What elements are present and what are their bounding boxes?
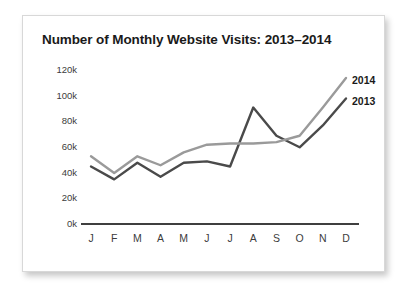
series-label-2013: 2013 [352, 95, 375, 107]
series-line-2013 [91, 99, 346, 180]
x-axis-tick-label: N [313, 232, 333, 244]
x-axis-tick-label: A [151, 232, 171, 244]
x-axis-tick-label: S [266, 232, 286, 244]
y-axis-tick-label: 40k [37, 166, 77, 177]
y-axis-tick-label: 100k [37, 89, 77, 100]
x-axis-tick-label: O [290, 232, 310, 244]
x-axis-tick-label: A [243, 232, 263, 244]
x-axis-tick-label: J [220, 232, 240, 244]
y-axis-tick-label: 120k [37, 64, 77, 75]
series-label-2014: 2014 [352, 74, 375, 86]
y-axis-tick-label: 80k [37, 115, 77, 126]
x-axis-tick-label: M [127, 232, 147, 244]
y-axis-tick-label: 20k [37, 192, 77, 203]
plot-area: 0k20k40k60k80k100k120kJFMAMJJASOND201320… [23, 16, 386, 273]
series-line-2014 [91, 78, 346, 173]
x-axis-tick-label: M [174, 232, 194, 244]
x-axis-tick-label: D [336, 232, 356, 244]
x-axis-tick-label: J [81, 232, 101, 244]
x-axis-tick-label: J [197, 232, 217, 244]
chart-card: Number of Monthly Website Visits: 2013–2… [22, 15, 385, 272]
y-axis-tick-label: 60k [37, 141, 77, 152]
y-axis-tick-label: 0k [37, 218, 77, 229]
x-axis-line [81, 223, 359, 225]
x-axis-tick-label: F [104, 232, 124, 244]
